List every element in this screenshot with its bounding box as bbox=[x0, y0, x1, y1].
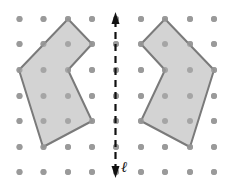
grid-dot bbox=[89, 67, 95, 73]
grid-dot bbox=[41, 169, 47, 175]
grid-dot bbox=[17, 144, 23, 150]
grid-dot bbox=[17, 16, 23, 22]
grid-dot bbox=[65, 16, 71, 22]
grid-dot bbox=[162, 16, 168, 22]
grid-dot bbox=[41, 144, 47, 150]
grid-dot bbox=[65, 118, 71, 124]
grid-dot bbox=[162, 144, 168, 150]
grid-dot bbox=[89, 118, 95, 124]
grid-dot bbox=[211, 118, 217, 124]
grid-dot bbox=[211, 93, 217, 99]
grid-dot bbox=[138, 169, 144, 175]
grid-dot bbox=[89, 144, 95, 150]
grid-dot bbox=[187, 144, 193, 150]
grid-dot bbox=[138, 93, 144, 99]
grid-dot bbox=[162, 41, 168, 47]
grid-dot bbox=[162, 169, 168, 175]
grid-dot bbox=[17, 41, 23, 47]
grid-dot bbox=[65, 41, 71, 47]
grid-dot bbox=[187, 118, 193, 124]
grid-dot bbox=[187, 67, 193, 73]
grid-dot bbox=[89, 93, 95, 99]
grid-dot bbox=[89, 41, 95, 47]
grid-dot bbox=[211, 144, 217, 150]
line-label: ℓ bbox=[121, 158, 127, 176]
grid-dot bbox=[41, 16, 47, 22]
grid-dot bbox=[65, 93, 71, 99]
grid-dot bbox=[211, 67, 217, 73]
grid-dot bbox=[187, 16, 193, 22]
reflection-diagram bbox=[0, 0, 238, 187]
grid-dot bbox=[162, 67, 168, 73]
grid-dot bbox=[89, 169, 95, 175]
grid-dot bbox=[41, 118, 47, 124]
grid-dot bbox=[89, 16, 95, 22]
grid-dot bbox=[41, 93, 47, 99]
grid-dot bbox=[211, 169, 217, 175]
grid-dot bbox=[65, 144, 71, 150]
grid-dot bbox=[65, 67, 71, 73]
grid-dot bbox=[211, 16, 217, 22]
grid-dot bbox=[138, 16, 144, 22]
grid-dot bbox=[211, 41, 217, 47]
grid-dot bbox=[187, 169, 193, 175]
grid-dot bbox=[17, 118, 23, 124]
grid-dot bbox=[17, 169, 23, 175]
grid-dot bbox=[138, 144, 144, 150]
grid-dot bbox=[187, 93, 193, 99]
reflected-polygon bbox=[141, 19, 214, 147]
grid-dot bbox=[138, 41, 144, 47]
grid-dot bbox=[187, 41, 193, 47]
grid-dot bbox=[17, 93, 23, 99]
grid-dot bbox=[65, 169, 71, 175]
grid-dot bbox=[17, 67, 23, 73]
grid-dot bbox=[138, 67, 144, 73]
grid-dot bbox=[162, 118, 168, 124]
original-polygon bbox=[19, 19, 92, 147]
grid-dot bbox=[41, 67, 47, 73]
grid-dot bbox=[162, 93, 168, 99]
grid-dot bbox=[138, 118, 144, 124]
grid-dot bbox=[41, 41, 47, 47]
